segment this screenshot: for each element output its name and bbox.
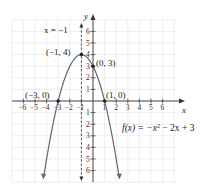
function-label: f(x) = −x2 − 2x + 3 <box>122 123 195 135</box>
key-point-marker <box>91 64 95 68</box>
key-point-marker <box>56 99 60 103</box>
x-tick-label: 3 <box>126 103 130 112</box>
function-label-rest: − 2x + 3 <box>160 123 195 133</box>
curve-arrow-right-icon <box>117 173 122 179</box>
y-tick-label: 6 <box>86 166 90 175</box>
function-label-main: f(x) = −x <box>122 123 158 134</box>
x-tick-label: −1 <box>76 103 84 112</box>
y-axis-label: y <box>83 11 88 21</box>
root-right-label: (1, 0) <box>106 90 126 100</box>
x-tick-label: −4 <box>42 103 50 112</box>
parabola-graph: −6−5−4−3−2−1123456654321123456 y x x = −… <box>0 0 221 192</box>
symmetry-arrow-up-icon <box>79 23 83 28</box>
y-tick-label: 2 <box>86 120 90 129</box>
x-tick-label: −6 <box>18 103 26 112</box>
x-tick-label: 5 <box>149 103 153 112</box>
y-tick-label: 6 <box>86 27 90 36</box>
y-tick-label: 3 <box>86 62 90 71</box>
y-tick-label: 1 <box>86 85 90 94</box>
x-axis-arrow-icon <box>179 99 185 104</box>
curve-arrow-left-icon <box>41 173 46 179</box>
y-tick-label: 3 <box>86 131 90 140</box>
y-intercept-label: (0, 3) <box>96 58 116 68</box>
x-tick-label: 6 <box>161 103 165 112</box>
key-point-marker <box>80 53 84 57</box>
x-tick-label: 4 <box>137 103 141 112</box>
root-left-label: (−3, 0) <box>25 90 50 100</box>
x-tick-label: −5 <box>30 103 38 112</box>
symmetry-label: x = −1 <box>44 25 68 35</box>
x-axis-label: x <box>181 105 186 115</box>
y-tick-label: 4 <box>86 143 90 152</box>
y-tick-label: 1 <box>86 108 90 117</box>
y-axis-arrow-icon <box>91 14 96 20</box>
y-tick-label: 5 <box>86 39 90 48</box>
y-tick-label: 2 <box>86 73 90 82</box>
vertex-label: (−1, 4) <box>46 47 71 57</box>
y-tick-label: 5 <box>86 155 90 164</box>
symmetry-arrow-down-icon <box>79 177 83 182</box>
x-tick-label: 2 <box>114 103 118 112</box>
x-tick-label: −2 <box>65 103 73 112</box>
